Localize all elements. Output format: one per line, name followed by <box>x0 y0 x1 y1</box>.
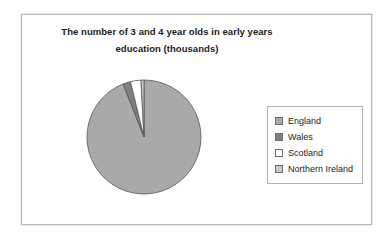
legend-item-england[interactable]: England <box>275 113 356 129</box>
legend-swatch-scotland <box>275 149 283 157</box>
chart-title-line-1: The number of 3 and 4 year olds in early… <box>32 23 302 40</box>
legend-label-england: England <box>288 116 321 127</box>
legend-label-northern-ireland: Northern Ireland <box>288 164 353 175</box>
legend-label-scotland: Scotland <box>288 148 323 159</box>
chart-frame: The number of 3 and 4 year olds in early… <box>21 14 372 225</box>
legend-item-scotland[interactable]: Scotland <box>275 145 356 161</box>
legend-swatch-england <box>275 117 283 125</box>
chart-title: The number of 3 and 4 year olds in early… <box>32 23 302 57</box>
legend-item-northern-ireland[interactable]: Northern Ireland <box>275 161 356 177</box>
chart-title-line-2: education (thousands) <box>32 40 302 57</box>
pie-slice-group <box>87 80 201 194</box>
chart-legend: England Wales Scotland Northern Ireland <box>267 106 363 184</box>
screenshot-root: The number of 3 and 4 year olds in early… <box>0 0 392 237</box>
pie-chart-svg <box>86 79 202 195</box>
legend-item-wales[interactable]: Wales <box>275 129 356 145</box>
legend-swatch-northern-ireland <box>275 165 283 173</box>
legend-label-wales: Wales <box>288 132 313 143</box>
pie-chart <box>86 79 202 195</box>
legend-swatch-wales <box>275 133 283 141</box>
